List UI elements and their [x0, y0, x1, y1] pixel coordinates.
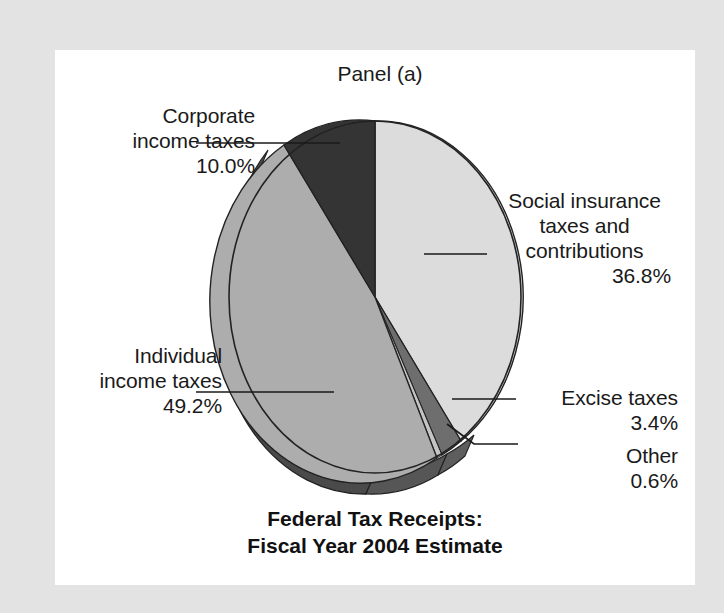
- label-individual-percent: 49.2%: [30, 393, 222, 418]
- label-excise-name: Excise taxes: [561, 386, 678, 409]
- label-corporate-income-taxes: Corporate income taxes 10.0%: [55, 78, 255, 203]
- caption-line-1: Federal Tax Receipts:: [105, 505, 645, 532]
- figure-caption: Federal Tax Receipts: Fiscal Year 2004 E…: [105, 505, 645, 559]
- label-social-name: Social insurance taxes and contributions: [508, 189, 661, 262]
- label-other-percent: 0.6%: [530, 468, 678, 493]
- label-corporate-name: Corporate income taxes: [132, 104, 255, 152]
- caption-line-2: Fiscal Year 2004 Estimate: [105, 532, 645, 559]
- panel-title: Panel (a): [300, 62, 460, 86]
- label-corporate-percent: 10.0%: [55, 153, 255, 178]
- label-other-name: Other: [626, 444, 678, 467]
- figure-page: Panel (a) Corporate income taxes 10.0% S…: [0, 0, 724, 613]
- label-other: Other 0.6%: [530, 418, 678, 518]
- label-individual-name: Individual income taxes: [99, 344, 222, 392]
- label-individual-income-taxes: Individual income taxes 49.2%: [30, 318, 222, 443]
- label-social-insurance: Social insurance taxes and contributions…: [492, 163, 677, 313]
- label-social-percent: 36.8%: [492, 263, 677, 288]
